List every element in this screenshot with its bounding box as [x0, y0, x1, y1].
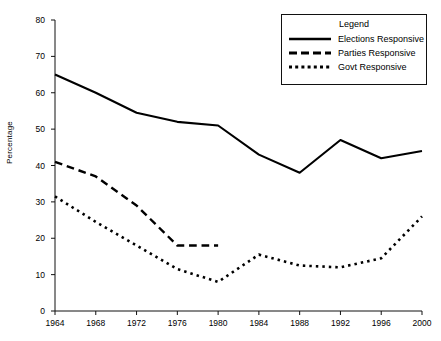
line-chart: Percentage 01020304050607080 19641968197…: [0, 0, 441, 341]
x-axis-tick-label: 1972: [117, 319, 157, 328]
x-axis-tick-label: 1968: [76, 319, 116, 328]
legend-title: Legend: [282, 19, 426, 29]
x-axis-tick-label: 1980: [198, 319, 238, 328]
legend-label: Elections Responsive: [338, 34, 424, 44]
legend-swatch-dashed: [288, 48, 332, 58]
legend-entry: Parties Responsive: [282, 46, 426, 60]
x-axis-tick-label: 1976: [157, 319, 197, 328]
y-axis-title: Percentage: [5, 108, 14, 178]
y-axis-tick-label: 30: [23, 198, 45, 207]
y-axis-tick-label: 0: [23, 307, 45, 316]
series-line-parties-responsive: [55, 162, 218, 246]
legend-swatch-solid: [288, 34, 332, 44]
series-line-elections-responsive: [55, 75, 422, 173]
legend-entries: Elections ResponsiveParties ResponsiveGo…: [282, 32, 426, 74]
legend-label: Govt Responsive: [338, 62, 407, 72]
y-axis-tick-label: 60: [23, 89, 45, 98]
series-lines: [55, 75, 422, 282]
legend-label: Parties Responsive: [338, 48, 416, 58]
x-axis-tick-label: 1964: [35, 319, 75, 328]
legend-swatch-dotted: [288, 62, 332, 72]
x-axis-tick-label: 2000: [402, 319, 441, 328]
y-axis-tick-label: 40: [23, 162, 45, 171]
x-axis-tick-label: 1992: [320, 319, 360, 328]
y-axis-tick-label: 50: [23, 125, 45, 134]
x-axis-tick-label: 1988: [280, 319, 320, 328]
legend-entry: Elections Responsive: [282, 32, 426, 46]
y-axis-tick-label: 20: [23, 234, 45, 243]
legend: Legend Elections ResponsiveParties Respo…: [281, 14, 427, 85]
y-axis-tick-label: 80: [23, 16, 45, 25]
x-axis-tick-label: 1996: [361, 319, 401, 328]
x-axis-tick-label: 1984: [239, 319, 279, 328]
legend-entry: Govt Responsive: [282, 60, 426, 74]
y-axis-tick-label: 10: [23, 271, 45, 280]
series-line-govt-responsive: [55, 196, 422, 281]
y-axis-tick-label: 70: [23, 52, 45, 61]
